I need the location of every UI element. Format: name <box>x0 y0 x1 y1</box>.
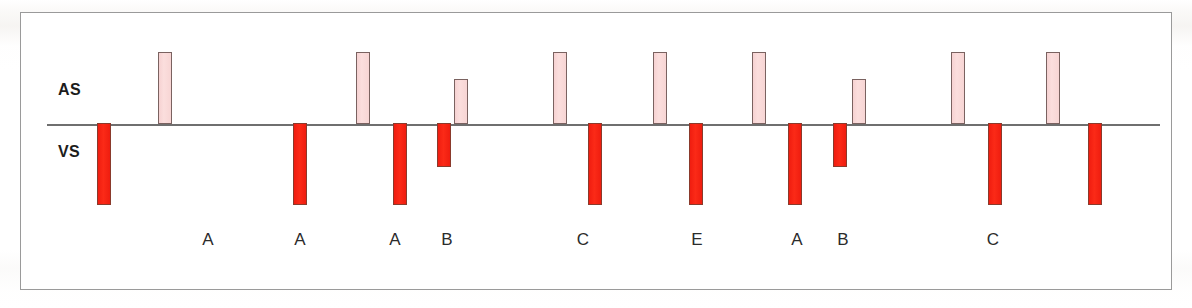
event-label: B <box>832 230 854 250</box>
atrial-sense-marker-bar <box>454 79 468 124</box>
event-label: B <box>436 230 458 250</box>
ventricular-sense-marker-bar <box>97 123 111 205</box>
row-label-atrial-sense: AS <box>58 81 81 99</box>
ventricular-sense-marker-bar <box>437 123 451 167</box>
event-label: E <box>686 230 708 250</box>
event-label: A <box>197 230 219 250</box>
marker-channel-plot: AS VS AAABCEABC <box>0 0 1192 308</box>
ventricular-sense-marker-bar <box>833 123 847 167</box>
atrial-sense-marker-bar <box>653 52 667 124</box>
event-label: A <box>786 230 808 250</box>
ventricular-sense-marker-bar <box>689 123 703 205</box>
atrial-sense-marker-bar <box>852 79 866 124</box>
event-label: A <box>384 230 406 250</box>
row-label-ventricular-sense: VS <box>58 143 80 161</box>
atrial-sense-marker-bar <box>1046 52 1060 124</box>
atrial-sense-marker-bar <box>356 52 370 124</box>
event-label: A <box>289 230 311 250</box>
ventricular-sense-marker-bar <box>988 123 1002 205</box>
ventricular-sense-marker-bar <box>1088 123 1102 205</box>
atrial-sense-marker-bar <box>951 52 965 124</box>
figure-canvas: AS VS AAABCEABC <box>0 0 1192 308</box>
ventricular-sense-marker-bar <box>293 123 307 205</box>
ventricular-sense-marker-bar <box>393 123 407 205</box>
event-label: C <box>572 230 594 250</box>
ventricular-sense-marker-bar <box>588 123 602 205</box>
event-label: C <box>982 230 1004 250</box>
atrial-sense-marker-bar <box>553 52 567 124</box>
atrial-sense-marker-bar <box>158 52 172 124</box>
ventricular-sense-marker-bar <box>788 123 802 205</box>
atrial-sense-marker-bar <box>752 52 766 124</box>
